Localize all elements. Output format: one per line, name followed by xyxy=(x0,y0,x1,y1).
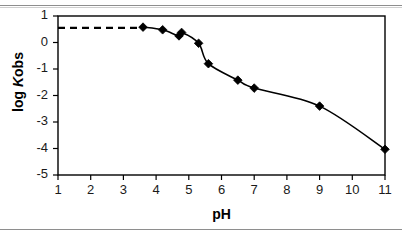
x-tick-label: 11 xyxy=(365,182,402,197)
axes-frame xyxy=(58,16,385,175)
plot-frame xyxy=(58,16,385,175)
y-axis-label: log Kobs xyxy=(10,40,26,124)
y-tick-label: -2 xyxy=(6,87,48,102)
data-point-marker xyxy=(315,102,324,111)
data-point-marker xyxy=(158,25,167,34)
data-point-marker xyxy=(234,76,243,85)
series-line xyxy=(143,27,385,149)
y-tick-label: 0 xyxy=(6,34,48,49)
data-point-marker xyxy=(250,84,259,93)
data-markers xyxy=(139,23,390,154)
y-tick-label: -3 xyxy=(6,113,48,128)
chart-figure: log Kobs pH 1234567891011 10-1-2-3-4-5 xyxy=(0,0,402,236)
y-axis-ticks xyxy=(53,16,58,175)
y-tick-label: -5 xyxy=(6,166,48,181)
data-point-marker xyxy=(139,23,148,32)
data-line xyxy=(143,27,385,149)
y-tick-label: 1 xyxy=(6,7,48,22)
plot-area xyxy=(0,0,402,236)
y-tick-label: -1 xyxy=(6,60,48,75)
x-axis-ticks xyxy=(58,175,385,180)
y-tick-label: -4 xyxy=(6,140,48,155)
x-axis-label: pH xyxy=(58,206,385,222)
